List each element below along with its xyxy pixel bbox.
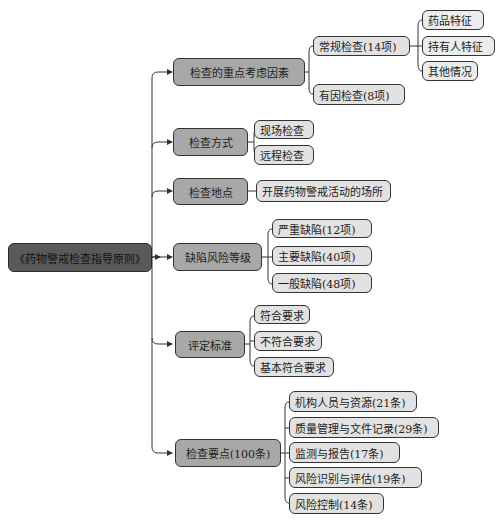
node-organization-personnel-resources[interactable]: 机构人员与资源(21条) [289,391,417,412]
root-label: 《药物警戒检查指导原则》 [14,250,146,266]
node-pv-activity-site[interactable]: 开展药物警戒活动的场所 [256,180,391,202]
node-label: 风险识别与评估(19条) [295,470,406,486]
node-label: 持有人特征 [428,38,483,54]
node-label: 常规检查(14项) [319,38,397,54]
node-label: 远程检查 [260,147,304,163]
branch-inspection-points[interactable]: 检查要点(100条) [175,439,281,467]
node-label: 开展药物警戒活动的场所 [262,183,383,199]
node-drug-characteristics[interactable]: 药品特征 [422,10,484,30]
node-label: 严重缺陷(12项) [278,221,356,237]
node-basically-compliant[interactable]: 基本符合要求 [254,357,334,377]
node-label: 现场检查 [260,122,304,138]
node-other-situations[interactable]: 其他情况 [422,61,478,81]
branch-label: 检查方式 [189,134,233,150]
node-major-defect[interactable]: 主要缺陷(40项) [272,246,372,266]
node-label: 监测与报告(17条) [295,445,384,461]
branch-defect-risk-level[interactable]: 缺陷风险等级 [173,243,262,271]
node-holder-characteristics[interactable]: 持有人特征 [422,36,495,56]
node-label: 风险控制(14条) [295,496,373,512]
node-label: 其他情况 [428,63,472,79]
branch-label: 检查要点(100条) [186,445,271,461]
node-remote-inspection[interactable]: 远程检查 [254,145,314,165]
node-label: 药品特征 [428,12,472,28]
node-routine-inspection[interactable]: 常规检查(14项) [313,36,410,56]
branch-inspection-method[interactable]: 检查方式 [173,128,248,156]
node-label: 符合要求 [260,307,304,323]
branch-inspection-location[interactable]: 检查地点 [173,178,248,205]
branch-label: 检查地点 [189,184,233,200]
branch-label: 评定标准 [188,337,232,353]
node-non-compliant[interactable]: 不符合要求 [254,331,322,351]
node-critical-defect[interactable]: 严重缺陷(12项) [272,219,372,238]
node-monitoring-reporting[interactable]: 监测与报告(17条) [289,442,400,463]
node-compliant[interactable]: 符合要求 [254,305,310,324]
node-label: 不符合要求 [260,333,315,349]
node-general-defect[interactable]: 一般缺陷(48项) [272,273,372,293]
node-quality-management-documentation[interactable]: 质量管理与文件记录(29条) [289,417,439,438]
branch-evaluation-criteria[interactable]: 评定标准 [175,331,245,358]
node-label: 基本符合要求 [260,359,326,375]
node-risk-control[interactable]: 风险控制(14条) [289,493,384,514]
branch-key-factors[interactable]: 检查的重点考虑因素 [173,58,305,86]
node-onsite-inspection[interactable]: 现场检查 [254,120,314,139]
mind-map: 《药物警戒检查指导原则》 检查的重点考虑因素 检查方式 检查地点 缺陷风险等级 … [0,0,501,526]
node-label: 机构人员与资源(21条) [295,394,406,410]
node-risk-identification-assessment[interactable]: 风险识别与评估(19条) [289,467,422,488]
branch-label: 缺陷风险等级 [185,249,251,265]
branch-label: 检查的重点考虑因素 [190,64,289,80]
root-node[interactable]: 《药物警戒检查指导原则》 [8,243,152,272]
node-label: 一般缺陷(48项) [278,275,356,291]
node-label: 质量管理与文件记录(29条) [295,420,428,436]
node-label: 主要缺陷(40项) [278,248,356,264]
node-for-cause-inspection[interactable]: 有因检查(8项) [313,84,405,105]
node-label: 有因检查(8项) [319,87,390,103]
